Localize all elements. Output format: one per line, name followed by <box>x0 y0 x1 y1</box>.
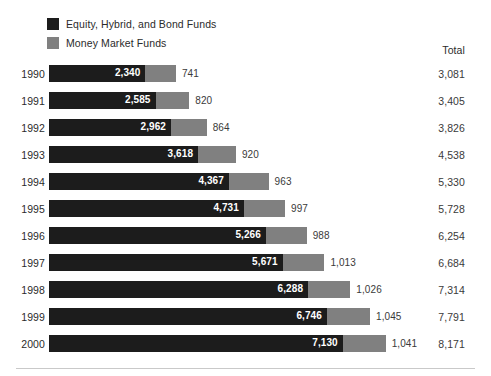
chart-legend: Equity, Hybrid, and Bond Funds Money Mar… <box>47 15 216 53</box>
bar-value-label-equity-hybrid-bond: 3,618 <box>168 148 194 159</box>
bar-value-label-money-market: 1,045 <box>376 311 402 322</box>
bar-value-label-money-market: 963 <box>275 176 292 187</box>
stacked-bar: 5,266988 <box>49 227 307 244</box>
bar-segment-equity-hybrid-bond: 6,746 <box>49 308 327 325</box>
bar-segment-money-market: 864 <box>171 119 207 136</box>
bar-value-label-equity-hybrid-bond: 2,585 <box>125 94 151 105</box>
chart-row: 19922,9628643,826 <box>0 118 491 145</box>
total-value: 6,684 <box>405 257 465 269</box>
year-label: 1996 <box>0 230 45 242</box>
year-label: 1992 <box>0 122 45 134</box>
bar-segment-money-market: 1,026 <box>308 281 350 298</box>
bar-value-label-money-market: 1,013 <box>330 257 356 268</box>
total-value: 3,405 <box>405 95 465 107</box>
chart-row: 19912,5858203,405 <box>0 91 491 118</box>
chart-row: 19954,7319975,728 <box>0 199 491 226</box>
bar-segment-equity-hybrid-bond: 7,130 <box>49 335 343 352</box>
stacked-bar: 2,962864 <box>49 119 207 136</box>
chart-row: 19902,3407413,081 <box>0 64 491 91</box>
legend-swatch-money-market <box>47 37 59 49</box>
bar-value-label-money-market: 864 <box>213 122 230 133</box>
chart-row: 19986,2881,0267,314 <box>0 280 491 307</box>
bar-value-label-money-market: 997 <box>291 203 308 214</box>
total-value: 3,826 <box>405 122 465 134</box>
total-value: 4,538 <box>405 149 465 161</box>
bar-segment-money-market: 1,045 <box>327 308 370 325</box>
chart-row: 19933,6189204,538 <box>0 145 491 172</box>
bar-segment-equity-hybrid-bond: 2,340 <box>49 65 145 82</box>
legend-label-equity-hybrid-bond: Equity, Hybrid, and Bond Funds <box>66 18 216 30</box>
legend-label-money-market: Money Market Funds <box>66 37 166 49</box>
stacked-bar: 2,585820 <box>49 92 189 109</box>
bar-value-label-equity-hybrid-bond: 6,288 <box>278 283 304 294</box>
bar-segment-money-market: 1,013 <box>283 254 325 271</box>
year-label: 1994 <box>0 176 45 188</box>
stacked-bar: 5,6711,013 <box>49 254 324 271</box>
bar-value-label-equity-hybrid-bond: 5,671 <box>252 256 278 267</box>
stacked-bar: 6,7461,045 <box>49 308 370 325</box>
bar-segment-equity-hybrid-bond: 4,367 <box>49 173 229 190</box>
year-label: 1997 <box>0 257 45 269</box>
stacked-bar: 7,1301,041 <box>49 335 386 352</box>
total-value: 6,254 <box>405 230 465 242</box>
year-label: 2000 <box>0 338 45 350</box>
bar-value-label-money-market: 820 <box>195 95 212 106</box>
chart-row: 19975,6711,0136,684 <box>0 253 491 280</box>
total-column-header: Total <box>405 44 465 56</box>
bar-segment-equity-hybrid-bond: 3,618 <box>49 146 198 163</box>
bar-segment-money-market: 741 <box>145 65 176 82</box>
total-value: 5,330 <box>405 176 465 188</box>
bar-segment-equity-hybrid-bond: 2,962 <box>49 119 171 136</box>
total-value: 8,171 <box>405 338 465 350</box>
year-label: 1991 <box>0 95 45 107</box>
stacked-bar: 6,2881,026 <box>49 281 350 298</box>
legend-item-equity-hybrid-bond: Equity, Hybrid, and Bond Funds <box>47 15 216 32</box>
stacked-bar: 2,340741 <box>49 65 176 82</box>
bar-value-label-equity-hybrid-bond: 6,746 <box>296 310 322 321</box>
bar-segment-equity-hybrid-bond: 5,266 <box>49 227 266 244</box>
bar-value-label-equity-hybrid-bond: 2,340 <box>115 67 141 78</box>
year-label: 1995 <box>0 203 45 215</box>
bar-value-label-money-market: 1,026 <box>356 284 382 295</box>
bar-value-label-money-market: 920 <box>242 149 259 160</box>
total-value: 5,728 <box>405 203 465 215</box>
stacked-bar: 3,618920 <box>49 146 236 163</box>
bar-value-label-equity-hybrid-bond: 4,731 <box>213 202 239 213</box>
year-label: 1999 <box>0 311 45 323</box>
total-value: 3,081 <box>405 68 465 80</box>
stacked-bar-chart: Equity, Hybrid, and Bond Funds Money Mar… <box>0 0 491 376</box>
stacked-bar: 4,731997 <box>49 200 285 217</box>
bar-segment-money-market: 997 <box>244 200 285 217</box>
stacked-bar: 4,367963 <box>49 173 269 190</box>
chart-row: 19965,2669886,254 <box>0 226 491 253</box>
bar-segment-equity-hybrid-bond: 6,288 <box>49 281 308 298</box>
year-label: 1998 <box>0 284 45 296</box>
legend-swatch-equity-hybrid-bond <box>47 18 59 30</box>
chart-row: 19996,7461,0457,791 <box>0 307 491 334</box>
bar-segment-equity-hybrid-bond: 4,731 <box>49 200 244 217</box>
chart-row: 20007,1301,0418,171 <box>0 334 491 361</box>
bar-segment-money-market: 963 <box>229 173 269 190</box>
bar-value-label-equity-hybrid-bond: 2,962 <box>141 121 167 132</box>
bar-segment-money-market: 988 <box>266 227 307 244</box>
bar-value-label-equity-hybrid-bond: 7,130 <box>312 337 338 348</box>
legend-item-money-market: Money Market Funds <box>47 34 216 51</box>
bar-segment-money-market: 920 <box>198 146 236 163</box>
total-value: 7,791 <box>405 311 465 323</box>
bar-value-label-equity-hybrid-bond: 4,367 <box>198 175 224 186</box>
chart-rows: 19902,3407413,08119912,5858203,40519922,… <box>0 64 491 361</box>
bottom-divider <box>16 368 475 369</box>
bar-value-label-money-market: 988 <box>313 230 330 241</box>
year-label: 1993 <box>0 149 45 161</box>
bar-segment-money-market: 1,041 <box>343 335 386 352</box>
bar-value-label-equity-hybrid-bond: 5,266 <box>235 229 261 240</box>
bar-segment-equity-hybrid-bond: 2,585 <box>49 92 156 109</box>
total-value: 7,314 <box>405 284 465 296</box>
bar-value-label-money-market: 741 <box>182 68 199 79</box>
bar-segment-money-market: 820 <box>156 92 190 109</box>
year-label: 1990 <box>0 68 45 80</box>
bar-segment-equity-hybrid-bond: 5,671 <box>49 254 283 271</box>
chart-row: 19944,3679635,330 <box>0 172 491 199</box>
